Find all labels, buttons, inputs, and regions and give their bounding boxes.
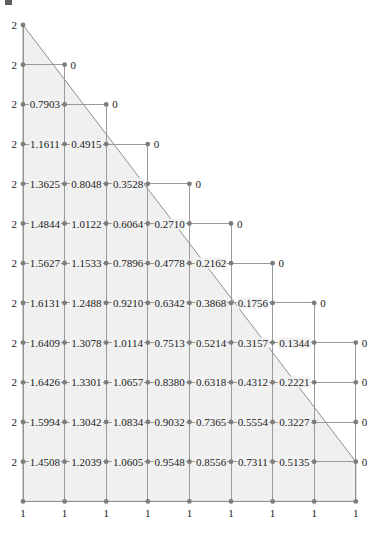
node-value-label: 0.3227 (278, 417, 310, 428)
node-value-label: 0.3868 (195, 297, 227, 308)
mesh-node (104, 181, 109, 186)
node-value-label: 0 (362, 456, 368, 467)
mesh-node (312, 459, 317, 464)
node-value-label: 2 (12, 417, 18, 428)
node-value-label: 1 (145, 508, 151, 519)
mesh-node (270, 340, 275, 345)
mesh-node (145, 181, 150, 186)
mesh-node (145, 380, 150, 385)
mesh-node (21, 340, 26, 345)
mesh-node (353, 380, 358, 385)
mesh-node (187, 499, 192, 504)
node-value-label: 0.4778 (153, 258, 185, 269)
mesh-node (312, 340, 317, 345)
node-value-label: 0.7513 (153, 337, 185, 348)
mesh-node (145, 301, 150, 306)
node-value-label: 0.7311 (237, 456, 269, 467)
mesh-node (62, 102, 67, 107)
node-value-label: 2 (12, 297, 18, 308)
mesh-node (62, 459, 67, 464)
node-value-label: 0.6318 (195, 377, 227, 388)
mesh-node (62, 420, 67, 425)
mesh-node (62, 499, 67, 504)
node-value-label: 1 (20, 508, 26, 519)
mesh-node (104, 221, 109, 226)
mesh-node (21, 23, 26, 28)
node-value-label: 1 (270, 508, 276, 519)
node-value-label: 2 (12, 99, 18, 110)
mesh-node (187, 261, 192, 266)
mesh-node (104, 142, 109, 147)
mesh-node (21, 221, 26, 226)
node-value-label: 1.6409 (29, 337, 61, 348)
mesh-node (312, 499, 317, 504)
mesh-node (270, 459, 275, 464)
mesh-node (187, 420, 192, 425)
mesh-node (21, 459, 26, 464)
mesh-node (270, 380, 275, 385)
mesh-node (145, 142, 150, 147)
mesh-node (62, 301, 67, 306)
node-value-label: 1.0657 (112, 377, 144, 388)
node-value-label: 1.3625 (29, 178, 61, 189)
mesh-node (62, 62, 67, 67)
node-value-label: 0.5135 (278, 456, 310, 467)
node-value-label: 1.3042 (70, 417, 102, 428)
node-value-label: 0.4312 (237, 377, 269, 388)
mesh-node (270, 261, 275, 266)
mesh-node (353, 459, 358, 464)
node-value-label: 0.6064 (112, 218, 144, 229)
mesh-node (145, 221, 150, 226)
mesh-node (62, 142, 67, 147)
node-value-label: 0.5214 (195, 337, 227, 348)
node-value-label: 2 (12, 59, 18, 70)
node-value-label: 1.2488 (70, 297, 102, 308)
mesh-node (21, 420, 26, 425)
node-value-label: 0 (362, 337, 368, 348)
node-value-label: 1.0122 (70, 218, 102, 229)
node-value-label: 1.3301 (70, 377, 102, 388)
mesh-node (104, 261, 109, 266)
node-value-label: 1.2039 (70, 456, 102, 467)
node-value-label: 1.4508 (29, 456, 61, 467)
mesh-node (353, 499, 358, 504)
mesh-node (187, 301, 192, 306)
node-value-label: 0.5554 (237, 417, 269, 428)
mesh-node (145, 420, 150, 425)
mesh-node (187, 459, 192, 464)
node-value-label: 0.2221 (278, 377, 310, 388)
mesh-node (229, 420, 234, 425)
mesh-node (62, 261, 67, 266)
node-value-label: 0.8556 (195, 456, 227, 467)
node-value-label: 0.1344 (278, 337, 310, 348)
node-value-label: 1.5627 (29, 258, 61, 269)
node-value-label: 2 (12, 178, 18, 189)
mesh-node (270, 301, 275, 306)
mesh-node (229, 380, 234, 385)
mesh-node (187, 221, 192, 226)
node-value-label: 1 (311, 508, 317, 519)
node-value-label: 0 (362, 377, 368, 388)
mesh-node (62, 340, 67, 345)
node-value-label: 0.9210 (112, 297, 144, 308)
mesh-node (21, 261, 26, 266)
mesh-node (145, 340, 150, 345)
node-value-label: 0.7896 (112, 258, 144, 269)
node-value-label: 0.3528 (112, 178, 144, 189)
mesh-node (353, 340, 358, 345)
mesh-node (21, 62, 26, 67)
mesh-node (229, 499, 234, 504)
mesh-node (104, 380, 109, 385)
node-value-label: 0.9032 (153, 417, 185, 428)
node-value-label: 0.4915 (70, 139, 102, 150)
mesh-diagram-canvas: 22020.7903021.16110.4915021.36250.80480.… (0, 0, 387, 535)
node-value-label: 0.8048 (70, 178, 102, 189)
node-value-label: 2 (12, 20, 18, 31)
mesh-node (312, 301, 317, 306)
mesh-node (353, 420, 358, 425)
node-value-label: 0.7903 (29, 99, 61, 110)
node-value-label: 0.3157 (237, 337, 269, 348)
node-value-label: 1.1611 (29, 139, 61, 150)
node-value-label: 0 (154, 139, 160, 150)
node-value-label: 2 (12, 456, 18, 467)
